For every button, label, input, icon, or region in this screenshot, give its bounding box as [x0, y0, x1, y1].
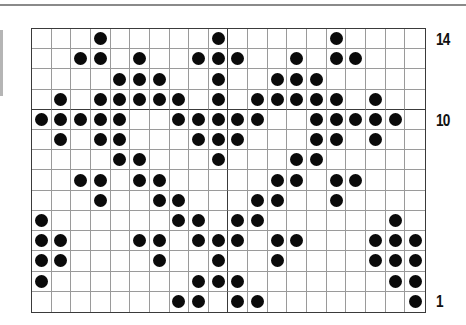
stitch-dot-icon [74, 174, 87, 187]
chart-cell-r14-c4 [91, 29, 111, 49]
stitch-dot-icon [330, 32, 343, 45]
chart-cell-r2-c2 [52, 272, 72, 292]
chart-cell-r12-c14 [287, 69, 307, 89]
chart-cell-r5-c16 [327, 211, 347, 231]
chart-cell-r12-c15 [307, 69, 327, 89]
stitch-dot-icon [133, 153, 146, 166]
chart-cell-r4-c7 [150, 231, 170, 251]
stitch-dot-icon [409, 254, 422, 267]
chart-cell-r4-c14 [287, 231, 307, 251]
chart-cell-r9-c15 [307, 130, 327, 150]
chart-cell-r14-c8 [170, 29, 190, 49]
chart-cell-r2-c5 [111, 272, 131, 292]
stitch-dot-icon [290, 93, 303, 106]
chart-cell-r1-c13 [268, 292, 288, 312]
chart-cell-r5-c14 [287, 211, 307, 231]
stitch-dot-icon [212, 52, 225, 65]
chart-cell-r9-c3 [71, 130, 91, 150]
stitch-dot-icon [271, 194, 284, 207]
chart-cell-r14-c2 [52, 29, 72, 49]
stitch-dot-icon [35, 275, 48, 288]
chart-cell-r6-c4 [91, 191, 111, 211]
chart-cell-r8-c19 [386, 150, 406, 170]
chart-cell-r8-c16 [327, 150, 347, 170]
chart-cell-r13-c19 [386, 49, 406, 69]
stitch-dot-icon [389, 113, 402, 126]
chart-cell-r4-c12 [248, 231, 268, 251]
chart-cell-r14-c13 [268, 29, 288, 49]
chart-cell-r7-c9 [189, 170, 209, 190]
chart-cell-r3-c17 [346, 251, 366, 271]
stitch-dot-icon [133, 52, 146, 65]
stitch-dot-icon [153, 234, 166, 247]
chart-cell-r12-c12 [248, 69, 268, 89]
stitch-dot-icon [251, 113, 264, 126]
chart-cell-r3-c12 [248, 251, 268, 271]
stitch-dot-icon [54, 133, 67, 146]
chart-cell-r14-c3 [71, 29, 91, 49]
stitch-dot-icon [212, 113, 225, 126]
stitch-dot-icon [330, 93, 343, 106]
stitch-dot-icon [172, 93, 185, 106]
chart-cell-r6-c2 [52, 191, 72, 211]
chart-cell-r7-c17 [346, 170, 366, 190]
chart-cell-r13-c5 [111, 49, 131, 69]
chart-cell-r4-c15 [307, 231, 327, 251]
chart-cell-r7-c18 [366, 170, 386, 190]
chart-cell-r7-c5 [111, 170, 131, 190]
chart-cell-r12-c17 [346, 69, 366, 89]
chart-cell-r14-c16 [327, 29, 347, 49]
chart-cell-r11-c6 [130, 90, 150, 110]
chart-cell-r13-c12 [248, 49, 268, 69]
chart-cell-r9-c19 [386, 130, 406, 150]
chart-cell-r6-c14 [287, 191, 307, 211]
chart-cell-r9-c17 [346, 130, 366, 150]
stitch-dot-icon [310, 153, 323, 166]
chart-cell-r9-c10 [209, 130, 229, 150]
stitch-dot-icon [212, 32, 225, 45]
stitch-dot-icon [192, 113, 205, 126]
chart-cell-r8-c5 [111, 150, 131, 170]
chart-cell-r13-c16 [327, 49, 347, 69]
stitch-dot-icon [94, 174, 107, 187]
chart-cell-r6-c10 [209, 191, 229, 211]
chart-cell-r8-c14 [287, 150, 307, 170]
chart-cell-r8-c10 [209, 150, 229, 170]
stitch-dot-icon [409, 275, 422, 288]
chart-cell-r7-c6 [130, 170, 150, 190]
stitch-dot-icon [369, 234, 382, 247]
chart-cell-r10-c5 [111, 110, 131, 130]
chart-cell-r1-c14 [287, 292, 307, 312]
chart-cell-r11-c5 [111, 90, 131, 110]
chart-cell-r7-c16 [327, 170, 347, 190]
chart-cell-r2-c11 [228, 272, 248, 292]
chart-cell-r14-c19 [386, 29, 406, 49]
chart-cell-r13-c15 [307, 49, 327, 69]
chart-cell-r13-c17 [346, 49, 366, 69]
stitch-dot-icon [153, 254, 166, 267]
chart-cell-r1-c10 [209, 292, 229, 312]
chart-cell-r4-c3 [71, 231, 91, 251]
chart-cell-r13-c2 [52, 49, 72, 69]
chart-cell-r8-c3 [71, 150, 91, 170]
chart-cell-r2-c16 [327, 272, 347, 292]
chart-cell-r4-c6 [130, 231, 150, 251]
chart-cell-r6-c7 [150, 191, 170, 211]
knitting-chart-grid [31, 28, 426, 313]
stitch-dot-icon [290, 73, 303, 86]
stitch-dot-icon [310, 73, 323, 86]
chart-cell-r7-c7 [150, 170, 170, 190]
chart-cell-r11-c11 [228, 90, 248, 110]
chart-cell-r12-c4 [91, 69, 111, 89]
chart-cell-r8-c1 [32, 150, 52, 170]
chart-cell-r1-c11 [228, 292, 248, 312]
chart-cell-r7-c13 [268, 170, 288, 190]
chart-cell-r11-c16 [327, 90, 347, 110]
chart-cell-r2-c7 [150, 272, 170, 292]
chart-cell-r10-c16 [327, 110, 347, 130]
stitch-dot-icon [290, 153, 303, 166]
chart-cell-r4-c1 [32, 231, 52, 251]
stitch-dot-icon [113, 133, 126, 146]
chart-cell-r10-c8 [170, 110, 190, 130]
stitch-dot-icon [35, 214, 48, 227]
